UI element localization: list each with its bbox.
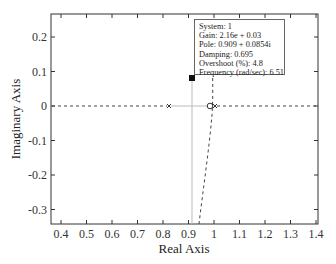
svg-text:0.5: 0.5 (79, 227, 94, 241)
y-tick-labels: 0.2 0.1 0 -0.1 -0.2 -0.3 (28, 30, 47, 217)
svg-text:0.9: 0.9 (181, 227, 196, 241)
svg-text:0: 0 (41, 99, 47, 113)
svg-text:1: 1 (211, 227, 217, 241)
svg-text:1.2: 1.2 (258, 227, 273, 241)
selected-point-marker[interactable] (189, 75, 195, 81)
svg-text:0.6: 0.6 (105, 227, 120, 241)
x-tick-labels: 0.4 0.5 0.6 0.7 0.8 0.9 1 1.1 1.2 1.3 1.… (54, 227, 324, 241)
datatip-frequency: Frequency (rad/sec): 6.51 (199, 68, 280, 77)
datatip-system: System: 1 (199, 22, 280, 31)
svg-text:0.7: 0.7 (130, 227, 145, 241)
svg-text:0.1: 0.1 (32, 65, 47, 79)
svg-text:0.2: 0.2 (32, 30, 47, 44)
y-axis-title: Imaginary Axis (8, 79, 23, 160)
datatip-pole: Pole: 0.909 + 0.0854i (199, 40, 280, 49)
datatip: System: 1 Gain: 2.16e + 0.03 Pole: 0.909… (194, 19, 285, 75)
datatip-overshoot: Overshoot (%): 4.8 (199, 59, 280, 68)
root-locus-plot: 0.4 0.5 0.6 0.7 0.8 0.9 1 1.1 1.2 1.3 1.… (0, 0, 336, 264)
svg-text:1.1: 1.1 (232, 227, 247, 241)
svg-text:1.3: 1.3 (283, 227, 298, 241)
svg-text:1.4: 1.4 (309, 227, 324, 241)
x-axis-title: Real Axis (159, 241, 210, 256)
svg-text:-0.3: -0.3 (28, 203, 47, 217)
svg-text:0.8: 0.8 (156, 227, 171, 241)
datatip-gain: Gain: 2.16e + 0.03 (199, 31, 280, 40)
svg-text:-0.2: -0.2 (28, 168, 47, 182)
svg-text:0.4: 0.4 (54, 227, 69, 241)
svg-text:-0.1: -0.1 (28, 134, 47, 148)
datatip-damping: Damping: 0.695 (199, 50, 280, 59)
